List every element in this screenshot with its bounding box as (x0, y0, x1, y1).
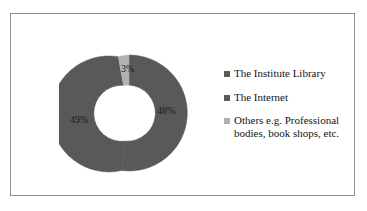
slice-label-the-internet: 48% (157, 106, 175, 116)
slice-label-others: 3% (121, 64, 134, 74)
legend-item-the-institute-library[interactable]: The Institute Library (224, 67, 364, 80)
legend-square-marker-icon (224, 95, 230, 101)
legend-item-label: The Institute Library (234, 67, 326, 80)
legend-item-label: Others e.g. Professional bodies, book sh… (234, 114, 339, 139)
legend-square-marker-icon (224, 71, 230, 77)
slice-label-the-institute-library: 49% (70, 115, 88, 125)
legend-item-label: The Internet (234, 91, 288, 104)
legend-item-the-internet[interactable]: The Internet (224, 91, 364, 104)
chart-frame: 3% 48% 49% The Institute Library The Int… (10, 13, 355, 196)
legend-square-marker-icon (224, 118, 230, 124)
chart-legend: The Institute Library The Internet Other… (224, 67, 364, 150)
donut-slice-the-institute-library[interactable] (59, 56, 126, 172)
legend-item-others[interactable]: Others e.g. Professional bodies, book sh… (224, 114, 364, 139)
donut-chart-plot-area: 3% 48% 49% (59, 44, 209, 184)
chart-figure: 3% 48% 49% The Institute Library The Int… (0, 0, 367, 211)
